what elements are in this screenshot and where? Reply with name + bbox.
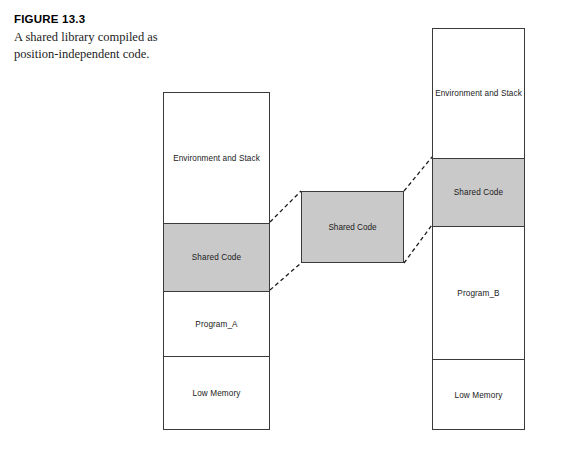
right-memory-column: Environment and Stack Shared Code Progra… bbox=[432, 28, 525, 430]
right-segment-low-memory: Low Memory bbox=[433, 359, 524, 430]
left-segment-low-memory: Low Memory bbox=[164, 356, 269, 430]
connector-right-top bbox=[404, 157, 432, 191]
right-segment-label-shared-code: Shared Code bbox=[454, 188, 503, 197]
left-segment-program-a: Program_A bbox=[164, 291, 269, 356]
connector-left-bottom bbox=[270, 263, 301, 290]
memory-layout-diagram: Environment and Stack Shared Code Progra… bbox=[0, 0, 568, 455]
right-segment-program-b: Program_B bbox=[433, 226, 524, 359]
left-segment-shared-code: Shared Code bbox=[164, 223, 269, 291]
left-segment-label-low-memory: Low Memory bbox=[193, 389, 241, 398]
connector-right-bottom bbox=[404, 225, 432, 263]
right-segment-environment-and-stack: Environment and Stack bbox=[433, 29, 524, 158]
left-segment-environment-and-stack: Environment and Stack bbox=[164, 93, 269, 223]
left-segment-label-environment-and-stack: Environment and Stack bbox=[173, 154, 260, 163]
left-segment-label-shared-code: Shared Code bbox=[192, 253, 241, 262]
left-segment-label-program-a: Program_A bbox=[195, 320, 237, 329]
left-memory-column: Environment and Stack Shared Code Progra… bbox=[163, 92, 270, 430]
right-segment-shared-code: Shared Code bbox=[433, 158, 524, 226]
center-shared-code-block: Shared Code bbox=[301, 191, 404, 263]
center-shared-code-label: Shared Code bbox=[328, 223, 376, 232]
connector-left-top bbox=[270, 191, 301, 222]
right-segment-label-program-b: Program_B bbox=[457, 289, 499, 298]
right-segment-label-environment-and-stack: Environment and Stack bbox=[435, 89, 522, 98]
right-segment-label-low-memory: Low Memory bbox=[455, 391, 503, 400]
